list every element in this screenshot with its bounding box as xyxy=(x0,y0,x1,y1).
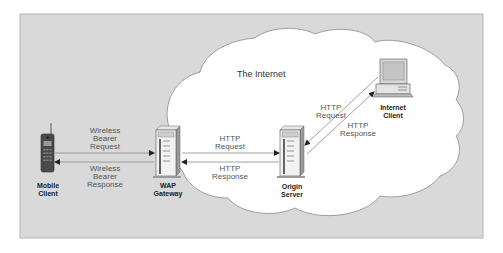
label-line: Response xyxy=(333,130,383,138)
wireless-request-label: Wireless Bearer Request xyxy=(80,127,130,151)
label-line: Client xyxy=(373,112,413,120)
internet-client-http-request-label: HTTP Request xyxy=(306,104,356,120)
origin-server-icon xyxy=(277,126,305,178)
label-line: Gateway xyxy=(148,190,188,198)
origin-server-label: Origin Server xyxy=(272,183,312,199)
label-line: Internet xyxy=(373,104,413,112)
wap-gateway-label: WAP Gateway xyxy=(148,182,188,198)
label-line: Origin xyxy=(272,183,312,191)
label-line: Request xyxy=(306,112,356,120)
gateway-http-request-label: HTTP Request xyxy=(205,135,255,151)
label-line: Response xyxy=(80,181,130,189)
label-line: Response xyxy=(205,173,255,181)
label-line: WAP xyxy=(148,182,188,190)
wap-gateway-server-icon xyxy=(153,126,181,178)
label-line: Mobile xyxy=(28,182,68,190)
label-line: Server xyxy=(272,191,312,199)
internet-client-http-response-label: HTTP Response xyxy=(333,122,383,138)
label-line: Request xyxy=(80,143,130,151)
label-line: Request xyxy=(205,143,255,151)
label-line: Client xyxy=(28,190,68,198)
gateway-http-response-label: HTTP Response xyxy=(205,165,255,181)
wireless-response-label: Wireless Bearer Response xyxy=(80,165,130,189)
internet-cloud xyxy=(167,28,463,215)
internet-cloud-label: The Internet xyxy=(237,69,286,79)
wap-architecture-diagram xyxy=(0,0,503,253)
mobile-client-label: Mobile Client xyxy=(28,182,68,198)
internet-client-label: Internet Client xyxy=(373,104,413,120)
